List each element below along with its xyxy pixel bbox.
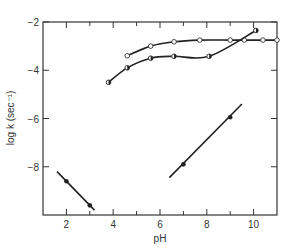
x-axis-label: pH: [154, 233, 167, 244]
x-tick-label: 6: [157, 219, 163, 230]
filled-circle-marker: [181, 162, 186, 167]
chart: 246810 −2−4−6−8 pH log k (sec⁻¹): [0, 0, 294, 249]
open-circle-marker: [148, 44, 153, 49]
y-tick-label: −4: [28, 65, 40, 76]
series-open-circles: [125, 38, 279, 58]
open-circle-marker: [261, 38, 266, 43]
data-series: [57, 28, 279, 210]
x-tick-label: 8: [204, 219, 210, 230]
y-tick-label: −2: [28, 17, 40, 28]
open-circle-marker: [172, 39, 177, 44]
x-tick-label: 2: [64, 219, 70, 230]
curve: [109, 30, 256, 82]
filled-circle-marker: [228, 115, 233, 120]
y-tick-label: −8: [28, 162, 40, 173]
open-circle-marker: [275, 38, 280, 43]
open-circle-marker: [228, 38, 233, 43]
filled-circle-marker: [64, 179, 69, 184]
filled-circle-marker: [88, 203, 93, 208]
x-tick-label: 4: [110, 219, 116, 230]
x-axis-ticks: 246810: [64, 22, 260, 230]
y-tick-label: −6: [28, 114, 40, 125]
open-circle-marker: [125, 53, 130, 58]
plot-frame: [43, 22, 277, 215]
open-circle-marker: [197, 38, 202, 43]
x-tick-label: 10: [248, 219, 260, 230]
series-low-pH-line: [57, 172, 94, 211]
y-axis-label: log k (sec⁻¹): [5, 91, 16, 145]
fit-line: [169, 104, 242, 178]
series-high-pH-line: [169, 104, 242, 178]
